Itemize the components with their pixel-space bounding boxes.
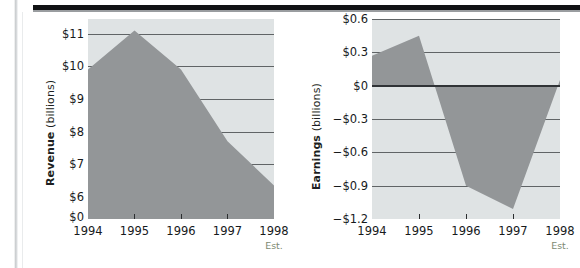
ytick-label: −$1.2 [333,214,368,224]
xaxis-tick [227,214,228,219]
xaxis-tick [181,214,182,219]
ytick-label: −$0.3 [333,114,368,124]
xtick-label: 1998 [259,224,288,238]
ytick-label: $0.6 [342,14,368,24]
estimate-note: Est. [265,240,283,251]
chart-earnings: Earnings (billions) $0.6$0.3$0−$0.3−$0.6… [292,0,580,268]
zero-baseline [372,85,560,87]
ytick-label: $0 [353,81,368,91]
ytick-label: $9 [69,94,84,104]
xtick-label: 1997 [213,224,242,238]
xaxis-tick [134,214,135,219]
earnings-xtick-labels: 19941995199619971998Est. [372,224,560,258]
figure-page: Revenue (billions) $11$10$9$8$7$6$0 1994… [0,0,580,268]
ytick-label: $7 [69,159,84,169]
ytick-label: $0.3 [342,47,368,57]
estimate-note: Est. [551,240,569,251]
ytick-label: $6 [69,192,84,202]
xaxis-tick [419,214,420,219]
xtick-label: 1996 [166,224,195,238]
revenue-area-series [88,19,274,219]
xaxis-tick [513,214,514,219]
ytick-label: $11 [62,29,84,39]
earnings-xaxis-ticks [372,214,560,220]
ytick-label: $8 [69,127,84,137]
xtick-label: 1995 [120,224,149,238]
revenue-xaxis-ticks [88,214,274,220]
xtick-label: 1997 [498,224,527,238]
revenue-xtick-labels: 19941995199619971998Est. [88,224,274,258]
earnings-plot-area [372,19,560,219]
xtick-label: 1994 [357,224,386,238]
xtick-label: 1996 [451,224,480,238]
ytick-label: −$0.9 [333,181,368,191]
ytick-label: −$0.6 [333,147,368,157]
ytick-label: $0 [69,212,84,222]
earnings-area-series [372,19,560,219]
xtick-label: 1994 [73,224,102,238]
xtick-label: 1998 [545,224,574,238]
xtick-label: 1995 [404,224,433,238]
revenue-plot-area [88,19,274,219]
ytick-label: $10 [62,61,84,71]
chart-revenue: Revenue (billions) $11$10$9$8$7$6$0 1994… [0,0,292,268]
xaxis-tick [466,214,467,219]
